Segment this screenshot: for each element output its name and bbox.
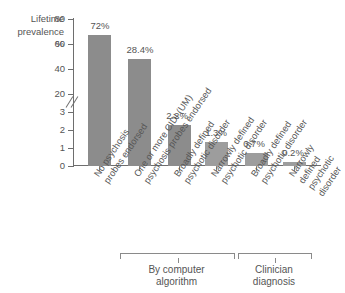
bar-value-2: 28.4% (112, 45, 168, 55)
group-label-computer: By computer algorithm (120, 264, 233, 288)
y-tick-label-1: 1 (37, 143, 65, 153)
group-bracket-clinician (238, 253, 312, 259)
y-tick-label-20: 20 (37, 89, 65, 99)
group-bracket-computer (120, 253, 235, 259)
y-tick-label-0: 0 (37, 161, 65, 171)
bar-no-psychosis-probes (88, 35, 111, 166)
bar-value-1: 72% (80, 21, 120, 31)
y-tick-label-60: 60 (37, 39, 65, 49)
y-tick-mark-0 (68, 166, 74, 167)
y-tick-label-3: 3 (37, 107, 65, 117)
y-tick-label-40: 40 (37, 64, 65, 74)
y-tick-label-2: 2 (37, 125, 65, 135)
group-label-clinician: Clinician diagnosis (238, 264, 310, 288)
y-tick-label-80: 80 (37, 14, 65, 24)
